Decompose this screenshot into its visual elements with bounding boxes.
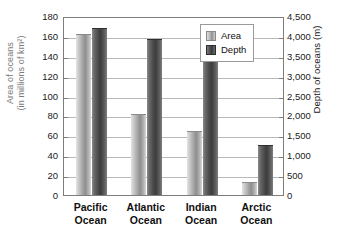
legend-label-depth: Depth <box>221 45 246 55</box>
tick-mark <box>64 98 68 99</box>
tick-mark <box>279 137 283 138</box>
y-axis-left-tick-label: 100 <box>22 92 58 102</box>
tick-mark <box>64 58 68 59</box>
tick-mark <box>279 177 283 178</box>
y-axis-right-tick-label: 0 <box>287 191 292 201</box>
x-axis-category-label: ArcticOcean <box>216 201 296 227</box>
tick-mark <box>279 38 283 39</box>
y-axis-left-tick-label: 80 <box>22 111 58 121</box>
bar-chart: Area of oceans (in millions of km²) Dept… <box>0 0 346 241</box>
tick-mark <box>64 137 68 138</box>
y-axis-left-title-line1: Area of oceans <box>5 13 16 133</box>
y-axis-right-title: Depth of oceans (m) <box>311 10 322 130</box>
y-axis-left-tick-label: 120 <box>22 72 58 82</box>
chart-legend: Area Depth <box>200 24 254 62</box>
tick-mark <box>279 78 283 79</box>
y-axis-left-tick-label: 60 <box>22 131 58 141</box>
y-axis-left-tick-label: 140 <box>22 52 58 62</box>
bar-area <box>131 114 146 195</box>
tick-mark <box>279 98 283 99</box>
legend-label-area: Area <box>221 31 241 41</box>
bar-depth <box>258 145 273 195</box>
tick-mark <box>279 58 283 59</box>
y-axis-right-tick-label: 3,500 <box>287 52 311 62</box>
tick-mark <box>64 157 68 158</box>
bar-area <box>242 182 257 195</box>
bar-depth <box>147 39 162 195</box>
y-axis-left-tick-label: 20 <box>22 171 58 181</box>
y-axis-right-tick-label: 4,500 <box>287 12 311 22</box>
y-axis-right-tick-label: 4,000 <box>287 32 311 42</box>
legend-swatch-area-icon <box>206 31 216 41</box>
y-axis-right-tick-label: 500 <box>287 171 303 181</box>
y-axis-right-tick-label: 3,000 <box>287 72 311 82</box>
bar-area <box>187 131 202 195</box>
legend-item-area: Area <box>206 29 246 43</box>
y-axis-left-tick-label: 180 <box>22 12 58 22</box>
bar-depth <box>92 28 107 195</box>
y-axis-left-tick-label: 40 <box>22 151 58 161</box>
tick-mark <box>64 38 68 39</box>
tick-mark <box>279 117 283 118</box>
y-axis-right-tick-label: 2,500 <box>287 92 311 102</box>
bar-area <box>76 34 91 195</box>
tick-mark <box>64 78 68 79</box>
y-axis-left-tick-label: 0 <box>22 191 58 201</box>
category-label-line: Ocean <box>216 214 296 227</box>
category-label-line: Arctic <box>216 201 296 214</box>
legend-swatch-depth-icon <box>206 45 216 55</box>
tick-mark <box>64 177 68 178</box>
y-axis-right-tick-label: 1,500 <box>287 131 311 141</box>
y-axis-right-tick-label: 2,000 <box>287 111 311 121</box>
tick-mark <box>279 157 283 158</box>
tick-mark <box>64 117 68 118</box>
y-axis-left-tick-label: 160 <box>22 32 58 42</box>
legend-item-depth: Depth <box>206 43 246 57</box>
y-axis-right-tick-label: 1,000 <box>287 151 311 161</box>
